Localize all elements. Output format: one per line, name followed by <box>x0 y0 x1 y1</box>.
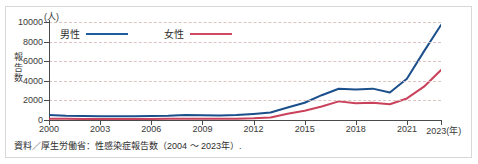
y-tick-8000 <box>44 42 50 43</box>
x-axis-line <box>49 120 441 121</box>
legend-label-male: 男性 <box>60 26 80 41</box>
y-tick-label-4000: 4000 <box>23 76 43 86</box>
y-tick-2000 <box>44 100 50 101</box>
x-tick-label-2006: 2006 <box>141 124 161 134</box>
legend-label-female: 女性 <box>164 26 184 41</box>
legend-item-female: 女性 <box>164 26 232 41</box>
y-tick-label-2000: 2000 <box>23 95 43 105</box>
gridline-y-2000 <box>49 100 441 101</box>
source-caption: 資料／厚生労働省：性感染症報告数（2004 ～ 2023年）. <box>14 139 242 152</box>
x-tick-label-2015: 2015 <box>295 124 315 134</box>
y-tick-label-10000: 10000 <box>18 17 43 27</box>
x-tick-label-2003: 2003 <box>90 124 110 134</box>
gridline-y-8000 <box>49 42 441 43</box>
x-tick-label-2012: 2012 <box>244 124 264 134</box>
legend-swatch-male-line <box>86 33 128 35</box>
chart-legend: 男性 女性 <box>60 26 232 41</box>
x-tick-label-2009: 2009 <box>192 124 212 134</box>
y-tick-label-6000: 6000 <box>23 56 43 66</box>
figure-container: (人) 報告数 0200040006000800010000 男性 女性 資料／… <box>0 0 478 164</box>
x-tick-label-2021: 2021 <box>397 124 417 134</box>
x-tick-label-2018: 2018 <box>346 124 366 134</box>
gridline-y-4000 <box>49 81 441 82</box>
legend-swatch-female-line <box>190 33 232 35</box>
y-tick-10000 <box>44 22 50 23</box>
y-tick-label-8000: 8000 <box>23 37 43 47</box>
series-line-女性 <box>49 70 441 119</box>
gridline-y-10000 <box>49 22 441 23</box>
y-tick-4000 <box>44 81 50 82</box>
x-tick-label-2000: 2000 <box>39 124 59 134</box>
y-tick-6000 <box>44 61 50 62</box>
gridline-y-6000 <box>49 61 441 62</box>
x-tick-label-2023: 2023(年) <box>426 124 461 137</box>
legend-item-male: 男性 <box>60 26 128 41</box>
